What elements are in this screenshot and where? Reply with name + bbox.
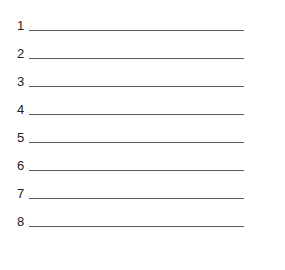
answer-row-2: 2 — [17, 40, 247, 60]
answer-row-8: 8 — [17, 208, 247, 228]
answer-row-3: 3 — [17, 68, 247, 88]
answer-row-5: 5 — [17, 124, 247, 144]
line-number: 3 — [17, 75, 24, 88]
line-number: 8 — [17, 215, 24, 228]
answer-blank-line[interactable] — [29, 86, 244, 87]
line-number: 1 — [17, 19, 24, 32]
line-number: 2 — [17, 47, 24, 60]
answer-row-7: 7 — [17, 180, 247, 200]
answer-blank-line[interactable] — [29, 142, 244, 143]
answer-row-4: 4 — [17, 96, 247, 116]
answer-blank-line[interactable] — [29, 58, 244, 59]
line-number: 7 — [17, 187, 24, 200]
line-number: 4 — [17, 103, 24, 116]
line-number: 6 — [17, 159, 24, 172]
answer-blank-line[interactable] — [29, 170, 244, 171]
answer-blank-line[interactable] — [29, 198, 244, 199]
answer-row-1: 1 — [17, 12, 247, 32]
answer-blank-line[interactable] — [29, 226, 244, 227]
answer-blank-line[interactable] — [29, 30, 244, 31]
line-number: 5 — [17, 131, 24, 144]
answer-row-6: 6 — [17, 152, 247, 172]
answer-blank-line[interactable] — [29, 114, 244, 115]
